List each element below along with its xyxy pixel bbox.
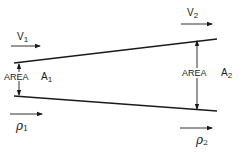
inlet-velocity-label: V1	[17, 31, 29, 44]
outlet-area-label: AREA	[182, 68, 207, 78]
outlet-area-symbol: A2	[221, 67, 233, 80]
outlet-velocity-label: V2	[187, 7, 199, 20]
duct-top-wall	[14, 39, 217, 63]
outlet-density-label: ρ2	[195, 133, 208, 147]
inlet-area-label: AREA	[4, 72, 29, 82]
inlet-area-symbol: A1	[41, 71, 53, 84]
inlet-density-label: ρ1	[15, 119, 28, 133]
diverging-duct-diagram: V1 V2 AREA A1 AREA A2 ρ1 ρ2	[0, 0, 244, 152]
duct-bottom-wall	[14, 96, 217, 111]
